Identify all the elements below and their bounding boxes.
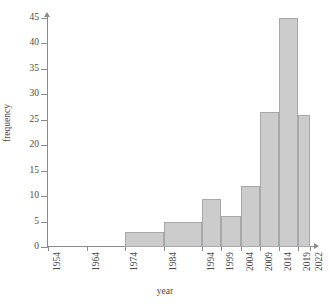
y-tick-mark xyxy=(41,94,47,95)
x-axis-arrow-icon xyxy=(314,243,319,249)
histogram-bar xyxy=(279,18,298,247)
y-tick-mark xyxy=(41,196,47,197)
x-tick-mark xyxy=(298,247,299,251)
y-tick-mark xyxy=(41,69,47,70)
x-tick-mark xyxy=(164,247,165,251)
x-tick-label: 1954 xyxy=(52,252,62,271)
x-tick-label: 1974 xyxy=(129,252,139,271)
y-tick-mark xyxy=(41,18,47,19)
x-tick-mark xyxy=(125,247,126,251)
histogram-bar xyxy=(298,115,310,247)
x-tick-mark xyxy=(221,247,222,251)
histogram-bar xyxy=(125,232,164,247)
y-tick-mark xyxy=(41,43,47,44)
y-tick-mark xyxy=(41,171,47,172)
x-tick-mark xyxy=(260,247,261,251)
x-tick-label: 2004 xyxy=(245,252,255,271)
y-tick-label: 35 xyxy=(20,63,39,73)
y-tick-mark xyxy=(41,120,47,121)
histogram-bar xyxy=(202,199,221,247)
x-tick-mark xyxy=(87,247,88,251)
y-tick-label: 20 xyxy=(20,139,39,149)
y-tick-mark xyxy=(41,145,47,146)
histogram-bar xyxy=(241,186,260,247)
x-tick-mark xyxy=(279,247,280,251)
y-tick-label: 25 xyxy=(20,114,39,124)
x-tick-label: 1994 xyxy=(206,252,216,271)
histogram-bar xyxy=(260,112,279,247)
y-tick-label: 40 xyxy=(20,37,39,47)
x-tick-label: 1984 xyxy=(168,252,178,271)
y-axis-arrow-icon xyxy=(44,12,50,17)
x-tick-label: 1999 xyxy=(225,252,235,271)
x-tick-mark xyxy=(48,247,49,251)
y-tick-mark xyxy=(41,222,47,223)
x-tick-label: 2019 xyxy=(302,252,312,271)
plot-area xyxy=(48,18,310,247)
histogram-bar xyxy=(221,216,240,247)
y-tick-mark xyxy=(41,247,47,248)
y-tick-label: 45 xyxy=(20,12,39,22)
histogram-bar xyxy=(164,222,203,247)
x-tick-mark xyxy=(202,247,203,251)
x-tick-label: 2022 xyxy=(314,252,324,271)
histogram-chart: 051015202530354045 195419641974198419941… xyxy=(0,0,330,304)
x-axis-title: year xyxy=(0,286,330,296)
y-tick-label: 10 xyxy=(20,190,39,200)
x-tick-label: 1964 xyxy=(91,252,101,271)
x-tick-label: 2014 xyxy=(283,252,293,271)
y-tick-label: 0 xyxy=(20,241,39,251)
x-tick-label: 2009 xyxy=(264,252,274,271)
x-tick-mark xyxy=(310,247,311,251)
y-tick-label: 15 xyxy=(20,165,39,175)
y-tick-label: 5 xyxy=(20,216,39,226)
x-tick-mark xyxy=(241,247,242,251)
y-axis-title: frequency xyxy=(2,104,12,142)
y-tick-label: 30 xyxy=(20,88,39,98)
